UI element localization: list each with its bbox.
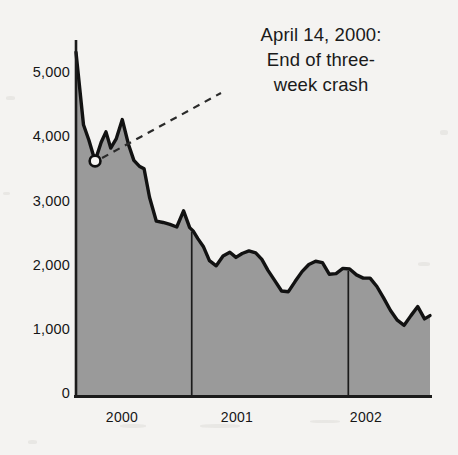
y-tick-label: 3,000: [8, 193, 70, 209]
y-tick-label: 0: [8, 385, 70, 401]
annotation-line-2: End of three-: [196, 47, 446, 72]
x-tick-label: 2001: [221, 409, 253, 425]
y-tick-label: 1,000: [8, 321, 70, 337]
annotation-callout: April 14, 2000: End of three- week crash: [196, 22, 446, 97]
x-tick-label: 2000: [106, 409, 138, 425]
y-tick-label: 5,000: [8, 64, 70, 80]
y-tick-label: 4,000: [8, 128, 70, 144]
annotation-line-3: week crash: [196, 72, 446, 97]
y-tick-label: 2,000: [8, 257, 70, 273]
chart-figure: 5,000 4,000 3,000 2,000 1,000 0 2000 200…: [0, 0, 458, 455]
annotation-marker-icon: [90, 156, 101, 167]
x-tick-label: 2002: [350, 409, 382, 425]
series-area-fill: [76, 52, 430, 396]
annotation-line-1: April 14, 2000:: [196, 22, 446, 47]
y-tick-label-group: 5,000 4,000 3,000 2,000 1,000 0: [0, 0, 70, 455]
